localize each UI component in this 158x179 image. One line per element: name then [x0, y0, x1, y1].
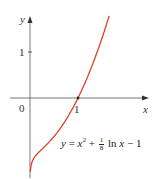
- y-axis-label: y: [20, 14, 25, 25]
- x-axis-arrow-icon: [142, 96, 149, 101]
- eq-equals: =: [66, 137, 78, 149]
- eq-denominator: 8: [99, 145, 105, 152]
- eq-tail: − 1: [124, 137, 141, 149]
- x-tick-label-1: 1: [74, 104, 80, 115]
- eq-fraction: 18: [99, 137, 105, 152]
- equation-annotation: y = x2 + 18 ln x − 1: [61, 136, 141, 152]
- x-axis-label: x: [143, 104, 148, 115]
- eq-plus: +: [86, 137, 98, 149]
- y-axis-arrow-icon: [28, 16, 33, 23]
- plot-canvas: [0, 0, 158, 179]
- y-tick-label-1: 1: [19, 47, 25, 58]
- eq-ln: ln: [105, 137, 119, 149]
- root-point: [77, 97, 80, 100]
- origin-label: 0: [19, 103, 25, 114]
